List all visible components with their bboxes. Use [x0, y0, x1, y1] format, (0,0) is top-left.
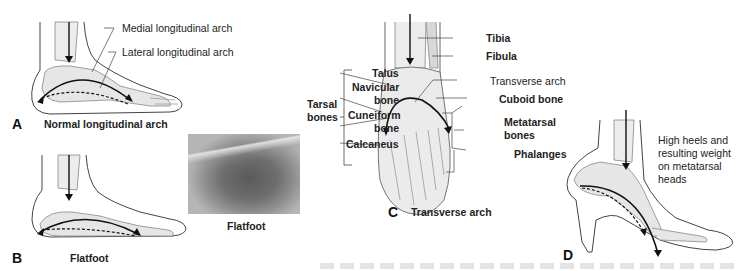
- label-tibia: Tibia: [486, 32, 510, 44]
- caption-flatfoot-photo: Flatfoot: [227, 220, 266, 232]
- foot-normal-arch-illustration: [0, 0, 200, 130]
- caption-transverse-arch: Transverse arch: [411, 206, 492, 218]
- note-high-heels-line4: heads: [658, 173, 687, 185]
- label-metatarsal-line1: Metatarsal: [504, 116, 556, 128]
- label-transverse-arch: Transverse arch: [490, 75, 565, 87]
- panel-letter-c: C: [388, 204, 398, 220]
- label-cuboid-bone: Cuboid bone: [499, 93, 563, 105]
- note-high-heels-line3: on metatarsal: [658, 160, 722, 172]
- label-calcaneus: Calcaneus: [346, 138, 399, 150]
- label-tarsal-line2: bones: [307, 111, 338, 123]
- label-medial-longitudinal-arch: Medial longitudinal arch: [122, 22, 232, 34]
- cropped-caption-line: [320, 263, 740, 269]
- label-fibula: Fibula: [486, 50, 517, 62]
- high-heel-foot-illustration: [560, 100, 740, 271]
- label-tarsal-line1: Tarsal: [307, 98, 337, 110]
- caption-normal-longitudinal-arch: Normal longitudinal arch: [44, 118, 168, 130]
- label-cuneiform-line1: Cuneiform: [348, 109, 401, 121]
- panel-letter-a: A: [12, 116, 22, 132]
- label-navicular-line1: Navicular: [352, 81, 399, 93]
- panel-letter-b: B: [12, 250, 22, 266]
- label-navicular-line2: bone: [374, 94, 399, 106]
- foot-flatfoot-illustration: [0, 150, 200, 260]
- label-phalanges: Phalanges: [514, 148, 567, 160]
- label-cuneiform-line2: bone: [374, 122, 399, 134]
- panel-letter-d: D: [563, 247, 573, 263]
- note-high-heels-line2: resulting weight: [658, 147, 731, 159]
- label-lateral-longitudinal-arch: Lateral longitudinal arch: [122, 46, 234, 58]
- note-high-heels-line1: High heels and: [658, 134, 728, 146]
- label-talus: Talus: [372, 67, 399, 79]
- caption-flatfoot-illustration: Flatfoot: [70, 252, 109, 264]
- label-metatarsal-line2: bones: [504, 129, 535, 141]
- flatfoot-photograph: [188, 134, 300, 214]
